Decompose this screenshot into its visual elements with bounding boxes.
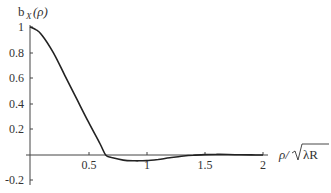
svg-text:2: 2	[260, 158, 266, 172]
data-curve	[30, 27, 263, 161]
svg-text:0.4: 0.4	[9, 97, 24, 111]
svg-text:0.8: 0.8	[9, 46, 24, 60]
svg-text:1: 1	[18, 20, 24, 34]
svg-text:0.2: 0.2	[9, 122, 24, 136]
svg-text:λR: λR	[303, 147, 318, 162]
svg-text:-0.2: -0.2	[5, 173, 24, 187]
svg-text:b: b	[18, 4, 25, 19]
svg-text:(ρ): (ρ)	[33, 4, 48, 19]
y-axis-label: b X (ρ)	[18, 4, 48, 21]
y-tick-labels: 1 0.8 0.6 0.4 0.2 -0.2	[5, 20, 24, 187]
svg-text:0.6: 0.6	[9, 71, 24, 85]
svg-text:X: X	[25, 11, 32, 21]
svg-text:0.5: 0.5	[82, 158, 97, 172]
svg-text:ρ/: ρ/	[278, 147, 290, 162]
chart: 1 0.8 0.6 0.4 0.2 -0.2 0.5 1 1.5 2 b X (…	[0, 0, 331, 193]
x-tick-labels: 0.5 1 1.5 2	[82, 158, 267, 172]
svg-text:1.5: 1.5	[198, 158, 213, 172]
x-axis-label: ρ/ λR	[278, 144, 329, 162]
